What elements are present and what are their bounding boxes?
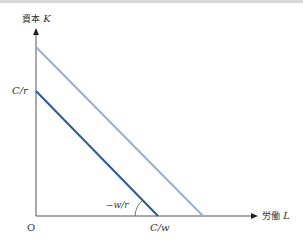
y-axis-label: 資本 K bbox=[22, 14, 51, 24]
slope-angle-arc bbox=[135, 200, 143, 216]
x-axis-label: 労働 L bbox=[262, 211, 290, 221]
y-axis-arrow-icon bbox=[33, 28, 39, 35]
slope-label: −w/r bbox=[106, 201, 129, 210]
x-axis-label-jp: 労働 bbox=[262, 211, 280, 221]
y-axis-label-jp: 資本 bbox=[22, 14, 40, 24]
x-axis-label-var: L bbox=[283, 210, 290, 221]
y-axis-label-var: K bbox=[43, 13, 50, 24]
y-intercept-label: C/r bbox=[12, 86, 28, 96]
diagram-canvas bbox=[0, 0, 303, 243]
x-intercept-label: C/w bbox=[150, 223, 170, 233]
x-axis-arrow-icon bbox=[251, 213, 258, 219]
origin-label: O bbox=[27, 223, 35, 233]
isocost-line-outer bbox=[36, 47, 203, 216]
